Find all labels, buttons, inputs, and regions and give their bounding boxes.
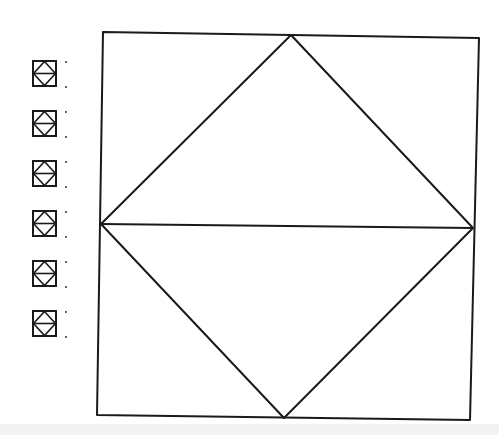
thumbnail-1[interactable] [32,60,72,94]
square-diamond-icon [32,60,72,94]
thumbnail-3[interactable] [32,160,72,194]
thumbnail-5[interactable] [32,260,72,294]
square-diamond-icon [32,110,72,144]
square-diamond-icon [32,160,72,194]
thumbnail-2[interactable] [32,110,72,144]
square-diamond-icon [32,210,72,244]
main-diagram [97,32,479,420]
thumbnail-4[interactable] [32,210,72,244]
main-diagram-canvas [0,0,499,435]
thumbnail-6[interactable] [32,310,72,344]
horizontal-diagonal [101,224,473,228]
square-diamond-icon [32,260,72,294]
square-diamond-icon [32,310,72,344]
